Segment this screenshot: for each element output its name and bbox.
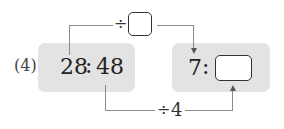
top-connector-left-vertical — [69, 25, 70, 55]
problem-number: (4) — [14, 56, 37, 75]
top-connector-right-horizontal — [157, 25, 194, 26]
right-ratio-first: 7 — [188, 55, 202, 80]
left-ratio-second: 48 — [96, 54, 124, 79]
bottom-connector-right-horizontal — [185, 110, 233, 111]
bottom-connector-right-vertical — [232, 91, 233, 111]
top-divide-symbol: ÷ — [114, 14, 127, 33]
arrow-down-icon — [191, 48, 197, 54]
left-ratio-first: 28 — [60, 54, 88, 79]
bottom-connector-left-horizontal — [105, 110, 155, 111]
right-ratio-colon: : — [202, 54, 209, 79]
top-connector-left-horizontal — [69, 25, 113, 26]
bottom-divisor-value: 4 — [171, 99, 182, 120]
bottom-connector-left-vertical — [105, 85, 106, 111]
top-divisor-blank[interactable] — [128, 12, 152, 36]
arrow-up-icon — [230, 85, 236, 91]
top-connector-right-vertical — [193, 25, 194, 49]
left-ratio-colon: : — [85, 53, 92, 78]
right-ratio-answer-blank[interactable] — [215, 55, 252, 81]
bottom-divide-symbol: ÷ — [157, 100, 170, 119]
